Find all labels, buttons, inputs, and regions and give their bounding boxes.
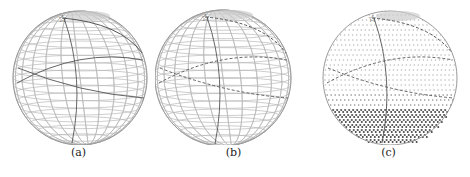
start-star-icon: ☆ <box>58 13 67 24</box>
caption-a: (a) <box>0 146 157 159</box>
start-star-icon: ☆ <box>368 13 377 24</box>
panel-c: ☆ (c) <box>310 0 467 177</box>
sphere-c: ☆ <box>310 0 467 145</box>
sphere-a: ☆ <box>0 0 157 145</box>
caption-b: (b) <box>155 146 312 159</box>
sphere-b: ☆ <box>155 0 312 145</box>
panel-a: ☆ (a) <box>0 0 157 177</box>
panel-b: ☆ (b) <box>155 0 312 177</box>
start-star-icon: ☆ <box>201 12 210 23</box>
caption-c: (c) <box>310 146 467 159</box>
